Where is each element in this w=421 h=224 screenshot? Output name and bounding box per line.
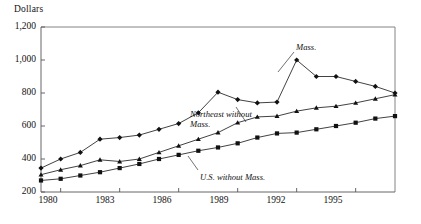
x-tick-marks (61, 188, 356, 192)
annotation-leader-lines (188, 52, 294, 170)
series-triangle (39, 92, 398, 176)
data-series-layer (38, 57, 397, 182)
series-diamond (38, 57, 397, 170)
plot-frame (41, 27, 395, 192)
chart-figure: Dollars 1,200 1,000 800 600 400 200 1980… (0, 0, 421, 224)
series-square (39, 114, 397, 183)
plot-area (0, 0, 421, 224)
